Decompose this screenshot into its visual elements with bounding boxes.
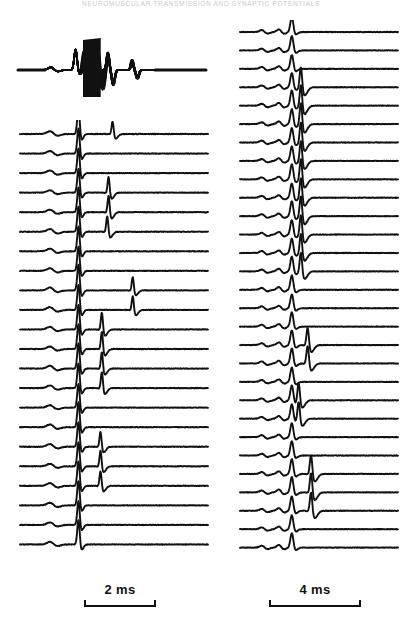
running-head: NEUROMUSCULAR TRANSMISSION AND SYNAPTIC … — [0, 0, 402, 7]
scalebar-left: 2 ms — [60, 582, 180, 607]
scalebar-left-cap-end — [154, 600, 156, 607]
right-sweep-stack-panel — [232, 20, 402, 572]
right-sweep-stack-plot — [232, 20, 402, 572]
scalebar-right-cap-end — [359, 600, 361, 607]
left-sweep-stack-plot — [12, 120, 212, 572]
scalebar-right: 4 ms — [250, 582, 380, 607]
left-sweep-stack-panel — [12, 120, 212, 572]
scalebar-left-label: 2 ms — [60, 582, 180, 597]
scalebar-left-cap-start — [84, 600, 86, 607]
figure-root: NEUROMUSCULAR TRANSMISSION AND SYNAPTIC … — [0, 0, 402, 625]
superimposed-sweeps-plot — [12, 26, 212, 100]
scalebar-right-rule — [269, 599, 361, 607]
scalebar-right-cap-start — [269, 600, 271, 607]
scalebar-right-label: 4 ms — [250, 582, 380, 597]
scalebar-left-rule — [84, 599, 156, 607]
superimposed-sweeps-panel — [12, 26, 212, 100]
